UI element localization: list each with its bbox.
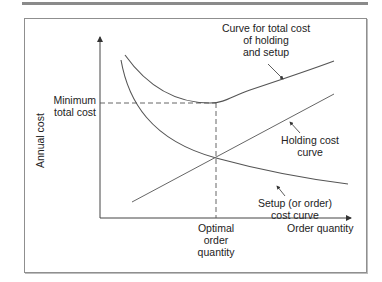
label-line: Optimal [180,222,252,234]
label-line: of holding [196,34,336,46]
total-curve-label: Curve for total cost of holding and setu… [196,22,336,58]
x-axis-label: Order quantity [287,222,354,234]
setup-leader-arrow [277,186,285,196]
total-cost-curve [125,55,334,103]
total-leader-arrow [268,64,283,79]
label-line: Holding cost [270,134,350,146]
label-line: quantity [180,246,252,258]
optimal-qty-label: Optimal order quantity [180,222,252,258]
holding-curve-label: Holding cost curve [270,134,350,158]
setup-cost-curve [121,60,348,184]
setup-curve-label: Setup (or order) cost curve [240,197,350,221]
label-line: Curve for total cost [196,22,336,34]
label-line: Setup (or order) [240,197,350,209]
y-axis-label: Annual cost [34,113,46,168]
label-line: curve [270,146,350,158]
label-line: Minimum [30,94,96,106]
label-line: order [180,234,252,246]
label-line: and setup [196,46,336,58]
holding-leader-arrow [290,122,300,133]
label-line: cost curve [240,209,350,221]
